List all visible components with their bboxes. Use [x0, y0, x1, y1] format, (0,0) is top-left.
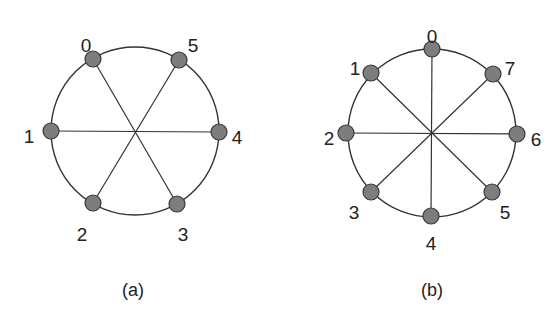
node-3 [169, 196, 185, 212]
node-label-5: 5 [500, 202, 511, 223]
node-5 [171, 52, 187, 68]
node-label-1: 1 [350, 58, 361, 79]
node-label-0: 0 [81, 35, 92, 56]
node-3 [363, 184, 379, 200]
node-1 [43, 123, 59, 139]
node-2 [85, 195, 101, 211]
diagram-b: 01234567(b) [324, 26, 542, 300]
node-6 [509, 126, 525, 142]
node-label-5: 5 [188, 35, 199, 56]
node-label-7: 7 [505, 58, 516, 79]
node-1 [363, 65, 379, 81]
node-label-2: 2 [324, 128, 335, 149]
node-label-0: 0 [427, 26, 438, 47]
caption: (a) [122, 280, 144, 300]
diagram-a: 012345(a) [24, 35, 243, 300]
node-label-4: 4 [232, 127, 243, 148]
node-label-6: 6 [531, 129, 542, 150]
node-label-1: 1 [24, 126, 35, 147]
node-label-3: 3 [178, 224, 189, 245]
node-label-3: 3 [349, 202, 360, 223]
node-4 [211, 124, 227, 140]
caption: (b) [421, 280, 443, 300]
node-2 [338, 125, 354, 141]
node-7 [485, 66, 501, 82]
node-4 [423, 208, 439, 224]
spoke-1-4 [51, 131, 219, 132]
ring-topology-figure: 012345(a)01234567(b) [0, 0, 559, 311]
node-label-4: 4 [426, 233, 437, 254]
node-5 [484, 184, 500, 200]
node-label-2: 2 [77, 224, 88, 245]
